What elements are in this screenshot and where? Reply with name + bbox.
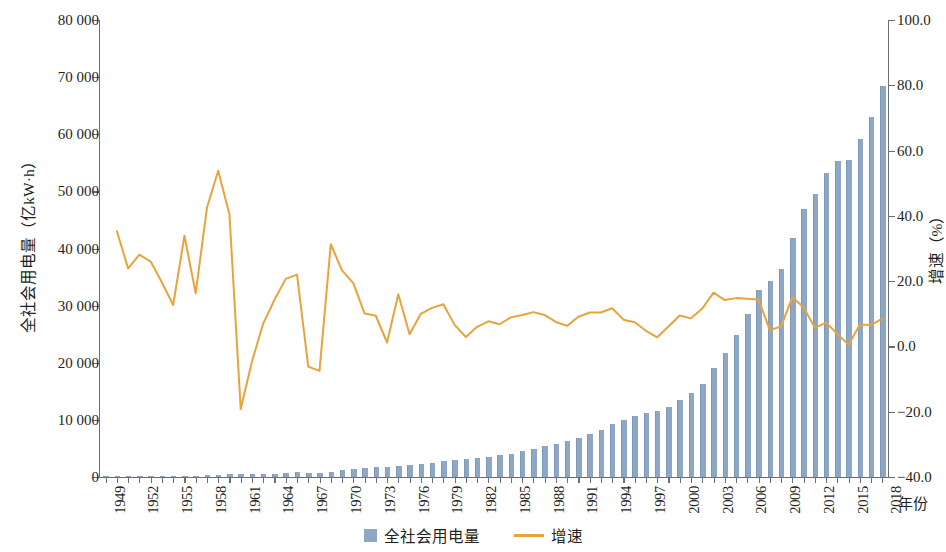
x-axis-tick (792, 478, 793, 483)
chart-legend: 全社会用电量 增速 (0, 524, 946, 546)
legend-label-bar: 全社会用电量 (384, 524, 480, 546)
y-axis-left-tick-label: 0 (92, 470, 100, 485)
y-axis-left-tick-label: 30 000 (58, 298, 99, 313)
chart-figure: 全社会用电量（亿kW·h） 增速（%） 年份 010 00020 00030 0… (0, 0, 946, 552)
x-axis-tick-label: 2009 (787, 486, 804, 514)
line-swatch-icon (514, 534, 544, 537)
y-axis-left-tick-label: 70 000 (58, 70, 99, 85)
line-series (100, 20, 888, 477)
x-axis-tick (365, 478, 366, 483)
x-axis-tick (308, 478, 309, 483)
x-axis-tick (151, 478, 152, 483)
x-axis-tick (522, 478, 523, 483)
x-axis-tick (623, 478, 624, 483)
plot-area: 010 00020 00030 00040 00050 00060 00070 … (100, 20, 888, 477)
y-axis-right-tick-label: −40.0 (897, 470, 932, 485)
y-axis-right-tick-label: 100.0 (897, 13, 931, 28)
x-axis-tick-label: 1976 (416, 486, 433, 514)
x-axis-tick (207, 478, 208, 483)
x-axis-tick (736, 478, 737, 483)
x-axis-tick (837, 478, 838, 483)
x-axis-tick (567, 478, 568, 483)
x-axis-tick (781, 478, 782, 483)
x-axis-tick (218, 478, 219, 483)
x-axis-tick (635, 478, 636, 483)
x-axis-tick (871, 478, 872, 483)
x-axis-tick (545, 478, 546, 483)
x-axis-tick (747, 478, 748, 483)
x-axis-tick-label: 2015 (855, 486, 872, 514)
x-axis-tick (646, 478, 647, 483)
x-axis-tick (410, 478, 411, 483)
x-axis-tick (714, 478, 715, 483)
x-axis-tick-label: 1949 (112, 486, 129, 514)
x-axis-tick-label: 2003 (720, 486, 737, 514)
x-axis-tick (162, 478, 163, 483)
y-axis-right-tick-label: 0.0 (897, 339, 916, 354)
growth-rate-polyline (117, 171, 882, 409)
x-axis-tick (286, 478, 287, 483)
x-axis-tick (398, 478, 399, 483)
x-axis-tick-label: 1955 (179, 486, 196, 514)
x-axis-tick-label: 1991 (584, 486, 601, 514)
x-axis-tick (455, 478, 456, 483)
x-axis-tick (533, 478, 534, 483)
x-axis-tick-label: 1970 (348, 486, 365, 514)
x-axis-tick (353, 478, 354, 483)
x-axis-tick-label: 1985 (517, 486, 534, 514)
y-axis-left-tick-label: 50 000 (58, 184, 99, 199)
y-axis-right-tick (889, 85, 895, 86)
x-axis-tick (770, 478, 771, 483)
x-axis-tick (342, 478, 343, 483)
x-axis-tick (331, 478, 332, 483)
x-axis-tick-label: 1982 (483, 486, 500, 514)
y-axis-left-title: 全社会用电量（亿kW·h） (16, 83, 38, 403)
x-axis-tick-label: 1997 (652, 486, 669, 514)
y-axis-right-tick (889, 477, 895, 478)
y-axis-right-tick (889, 151, 895, 152)
x-axis-tick (826, 478, 827, 483)
x-axis-tick (691, 478, 692, 483)
legend-item-bar: 全社会用电量 (364, 524, 480, 546)
x-axis-tick-label: 1961 (247, 486, 264, 514)
x-axis-tick (804, 478, 805, 483)
y-axis-left-tick-label: 10 000 (58, 412, 99, 427)
x-axis-tick (500, 478, 501, 483)
x-axis-tick (702, 478, 703, 483)
x-axis-tick (421, 478, 422, 483)
x-axis-tick (601, 478, 602, 483)
bar-swatch-icon (364, 529, 377, 542)
x-axis-tick (466, 478, 467, 483)
x-axis-tick (139, 478, 140, 483)
x-axis-tick (432, 478, 433, 483)
x-axis-tick (274, 478, 275, 483)
x-axis-tick-label: 1994 (618, 486, 635, 514)
x-axis-tick (590, 478, 591, 483)
y-axis-right-title: 增速（%） (924, 106, 946, 386)
x-axis-tick (297, 478, 298, 483)
x-axis-tick (612, 478, 613, 483)
x-axis-tick-label: 2012 (821, 486, 838, 514)
legend-label-line: 增速 (551, 524, 583, 546)
x-axis-tick (657, 478, 658, 483)
x-axis-tick (376, 478, 377, 483)
y-axis-left-tick-label: 80 000 (58, 13, 99, 28)
y-axis-left-tick-label: 60 000 (58, 127, 99, 142)
x-axis-tick (320, 478, 321, 483)
y-axis-right-tick-label: 40.0 (897, 208, 923, 223)
x-axis-tick (173, 478, 174, 483)
x-axis-tick (117, 478, 118, 483)
x-axis-tick-label: 1988 (551, 486, 568, 514)
y-axis-right-tick-label: 20.0 (897, 274, 923, 289)
x-axis-tick (128, 478, 129, 483)
x-axis-tick-label: 1967 (314, 486, 331, 514)
x-axis-tick (184, 478, 185, 483)
x-axis-tick-label: 1958 (213, 486, 230, 514)
x-axis-tick (725, 478, 726, 483)
y-axis-right-tick (889, 20, 895, 21)
legend-item-line: 增速 (514, 524, 583, 546)
x-axis-tick (556, 478, 557, 483)
y-axis-left-tick-label: 20 000 (58, 355, 99, 370)
x-axis-tick (387, 478, 388, 483)
x-axis-tick (680, 478, 681, 483)
